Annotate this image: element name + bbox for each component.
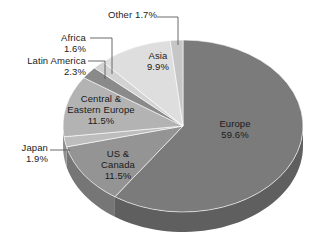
slice-label-central-eastern-europe-name2: Eastern Europe — [58, 104, 144, 115]
slice-label-japan-value: 1.9% — [4, 154, 48, 165]
slice-label-other-text: Other 1.7% — [108, 10, 157, 21]
slice-label-africa-value: 1.6% — [14, 44, 86, 55]
slice-label-africa-name: Africa — [14, 33, 86, 44]
slice-label-central-eastern-europe: Central & Eastern Europe 11.5% — [58, 93, 144, 126]
slice-label-us-canada: US & Canada 11.5% — [88, 148, 148, 181]
slice-label-other: Other 1.7% — [108, 10, 157, 21]
slice-label-europe: Europe 59.6% — [207, 118, 263, 140]
slice-label-central-eastern-europe-value: 11.5% — [58, 115, 144, 126]
slice-label-latin-america-value: 2.3% — [6, 67, 86, 78]
slice-label-europe-value: 59.6% — [207, 129, 263, 140]
slice-label-us-canada-name2: Canada — [88, 159, 148, 170]
slice-label-us-canada-value: 11.5% — [88, 170, 148, 181]
slice-label-latin-america: Latin America 2.3% — [6, 56, 86, 77]
slice-label-africa: Africa 1.6% — [14, 33, 86, 54]
slice-label-europe-name: Europe — [207, 118, 263, 129]
slice-label-latin-america-name: Latin America — [6, 56, 86, 67]
slice-label-japan-name: Japan — [4, 143, 48, 154]
slice-label-asia: Asia 9.9% — [136, 50, 180, 72]
slice-label-asia-value: 9.9% — [136, 61, 180, 72]
slice-label-asia-name: Asia — [136, 50, 180, 61]
pie-chart: Other 1.7% Africa 1.6% Latin America 2.3… — [0, 0, 324, 247]
slice-label-us-canada-name1: US & — [88, 148, 148, 159]
slice-label-central-eastern-europe-name1: Central & — [58, 93, 144, 104]
slice-label-japan: Japan 1.9% — [4, 143, 48, 164]
